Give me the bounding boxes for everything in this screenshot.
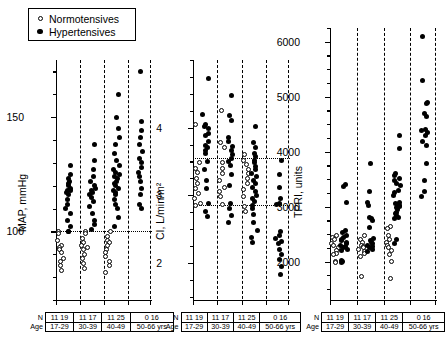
y-tick-minor	[327, 124, 330, 125]
table-row-header-age: Age	[301, 322, 322, 332]
data-point	[370, 247, 375, 252]
y-tick-major	[325, 97, 330, 98]
data-point	[419, 194, 424, 199]
y-tick-major	[325, 152, 330, 153]
table-row-n: N11 1911 1711 250 16	[301, 313, 445, 323]
table-cell-n: 11 17	[349, 313, 376, 323]
y-tick-minor	[327, 83, 330, 84]
data-point	[424, 143, 429, 148]
data-point	[397, 176, 402, 181]
data-point	[339, 248, 344, 253]
data-point	[368, 161, 373, 166]
data-point	[424, 101, 429, 106]
table-cell-age: 30-39	[349, 322, 376, 332]
y-tick-minor	[327, 110, 330, 111]
y-tick-major	[325, 42, 330, 43]
data-point	[358, 254, 363, 259]
data-point	[423, 133, 428, 138]
table-cell-age: 40-49	[376, 322, 403, 332]
x-tick	[384, 301, 385, 305]
table-row-age: Age17-2930-3940-4950-66 yrs	[301, 322, 445, 332]
table-row-header-n: N	[301, 313, 322, 323]
y-tick-label: 2000	[270, 256, 300, 268]
group-separator	[410, 28, 411, 304]
data-point	[391, 193, 396, 198]
y-tick-minor	[327, 55, 330, 56]
data-point	[333, 260, 338, 265]
panel-tpri: 20003000400050006000TPRI, unitsN11 1911 …	[0, 0, 445, 346]
data-point	[367, 189, 372, 194]
data-point	[392, 241, 397, 246]
y-axis-label: TPRI, units	[292, 166, 304, 218]
table-cell-n: 11 19	[322, 313, 349, 323]
y-tick-minor	[327, 248, 330, 249]
data-point	[331, 252, 336, 257]
table-cell-n: 0 16	[403, 313, 445, 323]
y-tick-label: 4000	[270, 146, 300, 158]
data-point	[345, 247, 350, 252]
data-point	[424, 114, 429, 119]
data-point	[392, 216, 397, 221]
x-tick	[410, 301, 411, 305]
y-tick-major	[325, 262, 330, 263]
x-tick	[435, 301, 436, 305]
figure-root: Normotensives Hypertensives 100150MAP, m…	[0, 0, 445, 346]
table-cell-age: 50-66 yrs	[403, 322, 445, 332]
table-cell-n: 11 25	[376, 313, 403, 323]
data-point	[367, 225, 372, 230]
y-tick-major	[325, 207, 330, 208]
data-point	[389, 259, 394, 264]
y-tick-minor	[327, 275, 330, 276]
y-tick-minor	[327, 69, 330, 70]
data-point	[422, 189, 427, 194]
data-point	[370, 218, 375, 223]
y-tick-minor	[327, 28, 330, 29]
data-point	[422, 178, 427, 183]
y-tick-label: 5000	[270, 91, 300, 103]
data-point	[359, 274, 364, 279]
data-point	[365, 249, 370, 254]
group-summary-table: N11 1911 1711 250 16Age17-2930-3940-4950…	[301, 312, 445, 332]
group-separator	[435, 28, 436, 304]
data-point	[339, 260, 344, 265]
x-tick	[357, 301, 358, 305]
data-point	[344, 200, 349, 205]
data-point	[356, 247, 361, 252]
y-tick-minor	[327, 165, 330, 166]
data-point	[387, 252, 392, 257]
data-point	[420, 78, 425, 83]
y-axis-line	[330, 28, 331, 300]
group-separator	[357, 28, 358, 304]
y-tick-minor	[327, 179, 330, 180]
table-cell-age: 17-29	[322, 322, 349, 332]
y-tick-minor	[327, 193, 330, 194]
data-point	[366, 203, 371, 208]
data-point	[397, 133, 402, 138]
y-tick-minor	[327, 138, 330, 139]
data-point	[388, 276, 393, 281]
group-separator	[384, 28, 385, 304]
data-point	[341, 184, 346, 189]
x-tick	[330, 301, 331, 305]
data-point	[424, 161, 429, 166]
data-point	[397, 146, 402, 151]
data-point	[420, 34, 425, 39]
y-tick-label: 6000	[270, 36, 300, 48]
data-point	[385, 226, 390, 231]
y-tick-minor	[327, 289, 330, 290]
y-tick-minor	[327, 220, 330, 221]
